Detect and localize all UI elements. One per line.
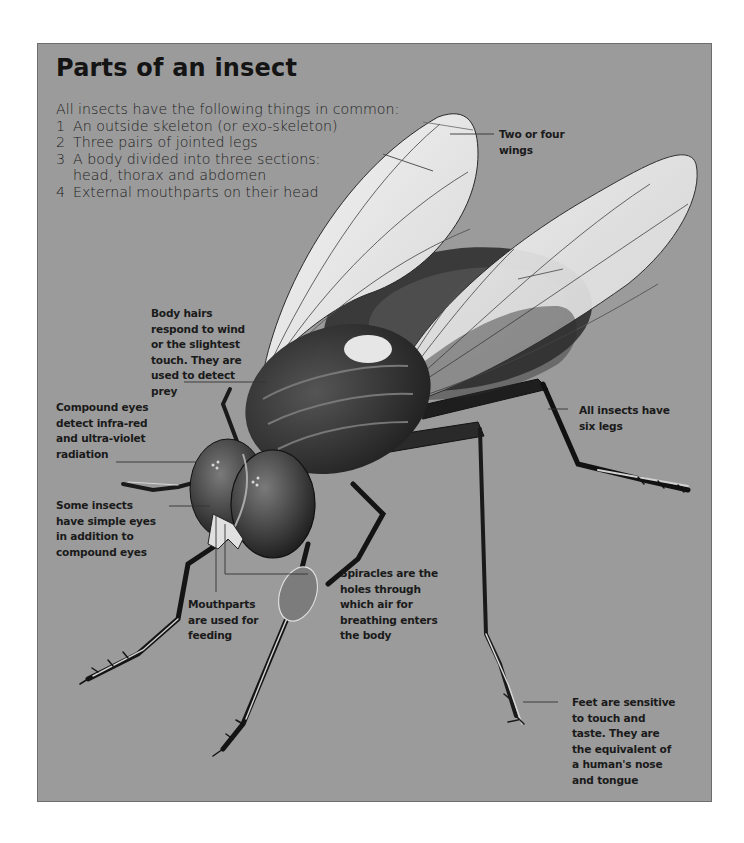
- spiracle: [272, 562, 325, 627]
- label-mouthparts: Mouthparts are used for feeding: [188, 597, 258, 644]
- label-body-hairs: Body hairs respond to wind or the slight…: [151, 306, 245, 399]
- diagram-panel: Parts of an insect All insects have the …: [37, 43, 712, 802]
- thorax-highlight: [344, 335, 392, 363]
- label-simple-eyes: Some insects have simple eyes in additio…: [56, 498, 156, 560]
- label-feet: Feet are sensitive to touch and taste. T…: [572, 695, 675, 788]
- label-six-legs: All insects have six legs: [579, 403, 670, 434]
- label-spiracles: Spiracles are the holes through which ai…: [340, 566, 438, 644]
- label-compound-eyes: Compound eyes detect infra-red and ultra…: [56, 400, 148, 462]
- label-wings: Two or four wings: [499, 127, 564, 158]
